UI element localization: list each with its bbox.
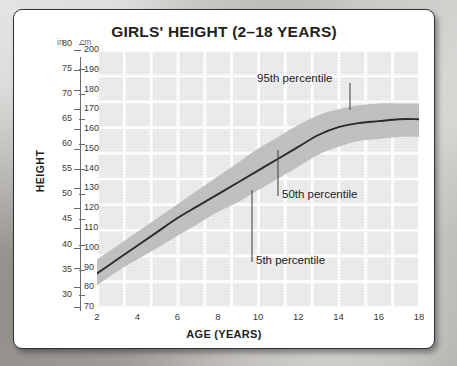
y-tick-label-in: 70 bbox=[48, 88, 72, 98]
chart-card: GIRLS' HEIGHT (2–18 YEARS) in cm HEIGHT … bbox=[13, 9, 435, 349]
y-tick-label-in: 45 bbox=[48, 213, 72, 223]
plot-area bbox=[97, 50, 419, 307]
y-tick-label-cm: 100 bbox=[84, 242, 104, 252]
y-tick-label-cm: 80 bbox=[84, 281, 104, 291]
x-tick-label: 6 bbox=[167, 311, 189, 322]
y-tickmark-in bbox=[79, 169, 85, 170]
y-axis-title: HEIGHT bbox=[34, 136, 46, 206]
y-tickmark-in bbox=[79, 270, 85, 271]
y-tickmark-in bbox=[79, 295, 85, 296]
y-tick-label-cm: 190 bbox=[84, 64, 104, 74]
y-tickmark-cm bbox=[74, 248, 81, 249]
y-tick-label-in: 80 bbox=[48, 38, 72, 48]
y-tickmark-cm bbox=[74, 70, 81, 71]
x-tick-label: 12 bbox=[287, 311, 309, 322]
y-tickmark-in bbox=[79, 94, 85, 95]
x-tick-label: 4 bbox=[126, 311, 148, 322]
y-tick-label-cm: 130 bbox=[84, 182, 104, 192]
y-tick-label-cm: 200 bbox=[84, 44, 104, 54]
y-tickmark-cm bbox=[74, 307, 81, 308]
y-tickmark-cm bbox=[74, 129, 81, 130]
annotation-95th-percentile: 95th percentile bbox=[257, 72, 332, 84]
y-tickmark-in bbox=[79, 69, 85, 70]
y-tick-label-in: 60 bbox=[48, 138, 72, 148]
y-tickmark-in bbox=[79, 245, 85, 246]
x-tick-label: 14 bbox=[328, 311, 350, 322]
x-tick-label: 2 bbox=[86, 311, 108, 322]
y-tickmark-in bbox=[79, 219, 85, 220]
y-tickmark-cm bbox=[74, 208, 81, 209]
x-tick-label: 10 bbox=[247, 311, 269, 322]
y-tick-label-cm: 150 bbox=[84, 143, 104, 153]
y-tick-label-cm: 170 bbox=[84, 103, 104, 113]
y-tick-label-in: 30 bbox=[48, 289, 72, 299]
y-tick-label-in: 50 bbox=[48, 188, 72, 198]
x-tick-label: 16 bbox=[368, 311, 390, 322]
y-tick-label-in: 75 bbox=[48, 63, 72, 73]
y-tick-label-cm: 110 bbox=[84, 222, 104, 232]
y-tick-label-cm: 70 bbox=[84, 301, 104, 311]
x-tick-label: 18 bbox=[408, 311, 430, 322]
y-tick-label-in: 35 bbox=[48, 264, 72, 274]
y-tickmark-cm bbox=[74, 287, 81, 288]
annotation-5th-percentile: 5th percentile bbox=[256, 254, 325, 266]
y-tick-label-cm: 90 bbox=[84, 262, 104, 272]
y-tick-label-in: 55 bbox=[48, 163, 72, 173]
annotation-50th-percentile: 50th percentile bbox=[282, 188, 357, 200]
y-tick-label-cm: 140 bbox=[84, 163, 104, 173]
y-tick-label-cm: 180 bbox=[84, 84, 104, 94]
x-axis-title: AGE (YEARS) bbox=[14, 328, 434, 340]
y-tickmark-in bbox=[79, 119, 85, 120]
y-tick-label-cm: 120 bbox=[84, 202, 104, 212]
y-tickmark-in bbox=[79, 194, 85, 195]
y-tick-label-cm: 160 bbox=[84, 123, 104, 133]
y-tickmark-cm bbox=[74, 149, 81, 150]
y-tickmark-in bbox=[79, 44, 85, 45]
x-tick-label: 8 bbox=[207, 311, 229, 322]
percentile-curves bbox=[97, 50, 419, 307]
y-tickmark-cm bbox=[74, 50, 81, 51]
y-tick-label-in: 40 bbox=[48, 239, 72, 249]
y-tickmark-cm bbox=[74, 188, 81, 189]
y-axis-line bbox=[80, 57, 81, 311]
y-tickmark-in bbox=[79, 144, 85, 145]
y-tickmark-cm bbox=[74, 268, 81, 269]
y-tickmark-cm bbox=[74, 90, 81, 91]
y-tickmark-cm bbox=[74, 228, 81, 229]
chart-title: GIRLS' HEIGHT (2–18 YEARS) bbox=[14, 23, 434, 41]
y-tick-label-in: 65 bbox=[48, 113, 72, 123]
y-tickmark-cm bbox=[74, 109, 81, 110]
